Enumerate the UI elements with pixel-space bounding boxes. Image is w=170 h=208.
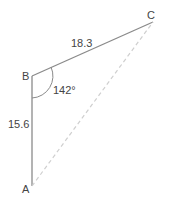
- side-ac-dashed: [32, 22, 153, 186]
- side-label-bc: 18.3: [71, 37, 92, 49]
- side-label-ab: 15.6: [8, 118, 29, 130]
- side-bc: [32, 22, 153, 76]
- vertex-label-a: A: [22, 183, 30, 195]
- triangle-diagram: B C A 18.3 15.6 142°: [0, 0, 170, 208]
- angle-label-b: 142°: [53, 84, 76, 96]
- vertex-label-c: C: [147, 9, 155, 21]
- vertex-label-b: B: [22, 70, 29, 82]
